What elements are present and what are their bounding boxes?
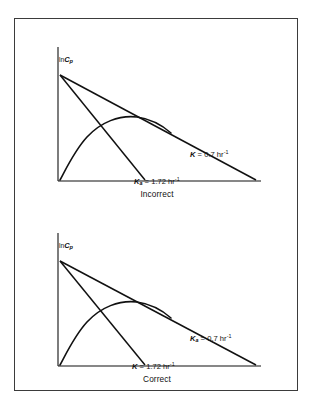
chart-panel-incorrect: lnCp K = 0.7 hr-1 Ka = 1.72 hr-1 Incorre… — [15, 19, 299, 211]
rate-units: hr — [168, 177, 175, 186]
terminal-slope-label-correct: Ka = 0.7 hr-1 — [190, 334, 231, 343]
rate-value: 0.7 — [204, 150, 215, 159]
figure-border: lnCp K = 0.7 hr-1 Ka = 1.72 hr-1 Incorre… — [14, 18, 298, 391]
residual-slope-line — [60, 75, 145, 180]
y-axis-label-incorrect: lnCp — [59, 55, 73, 64]
residual-slope-line — [60, 261, 145, 365]
rate-equals: = — [145, 177, 149, 186]
rate-value: 1.72 — [151, 177, 166, 186]
caption-correct: Correct — [15, 374, 299, 384]
rate-exponent: -1 — [224, 149, 229, 155]
y-axis-label-symbol: C — [64, 241, 69, 250]
terminal-slope-line — [60, 75, 256, 180]
residual-slope-label-incorrect: Ka = 1.72 hr-1 — [134, 177, 180, 186]
terminal-slope-line — [60, 261, 256, 365]
terminal-slope-label-incorrect: K = 0.7 hr-1 — [190, 150, 228, 159]
rate-symbol: K — [132, 362, 137, 371]
rate-value: 1.72 — [146, 362, 161, 371]
rate-exponent: -1 — [170, 361, 175, 367]
rate-exponent: -1 — [175, 176, 180, 182]
figure-root: lnCp K = 0.7 hr-1 Ka = 1.72 hr-1 Incorre… — [0, 0, 314, 410]
caption-incorrect: Incorrect — [15, 189, 299, 199]
y-axis-label-correct: lnCp — [59, 241, 73, 250]
rate-units: hr — [220, 334, 227, 343]
y-axis-label-subscript: p — [70, 244, 73, 250]
rate-units: hr — [217, 150, 224, 159]
rate-symbol: K — [190, 150, 195, 159]
residual-slope-label-correct: K = 1.72 hr-1 — [132, 362, 175, 371]
rate-exponent: -1 — [227, 333, 232, 339]
rate-units: hr — [163, 362, 170, 371]
rate-equals: = — [140, 362, 144, 371]
rate-value: 0.7 — [207, 334, 218, 343]
rate-subscript: a — [195, 337, 198, 343]
rate-equals: = — [201, 334, 205, 343]
y-axis-label-symbol: C — [64, 55, 69, 64]
rate-equals: = — [198, 150, 202, 159]
y-axis-label-subscript: p — [70, 58, 73, 64]
chart-panel-correct: lnCp Ka = 0.7 hr-1 K = 1.72 hr-1 Correct — [15, 211, 299, 392]
rate-subscript: a — [139, 180, 142, 186]
